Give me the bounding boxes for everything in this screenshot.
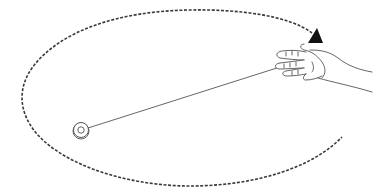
hand-icon xyxy=(275,44,372,92)
yoyo-orbit-diagram xyxy=(0,0,391,196)
yoyo-string xyxy=(88,67,280,128)
yoyo-icon xyxy=(73,123,89,140)
direction-arrow-icon xyxy=(308,28,323,43)
diagram-canvas xyxy=(0,0,391,196)
